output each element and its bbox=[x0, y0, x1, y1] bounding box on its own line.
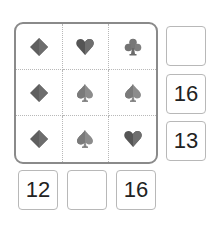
grid-cell-r2-c1[interactable] bbox=[63, 116, 110, 162]
heart-icon bbox=[123, 129, 143, 149]
club-icon bbox=[123, 37, 143, 57]
grid-cell-r1-c2[interactable] bbox=[109, 70, 156, 116]
grid-cell-r0-c0[interactable] bbox=[16, 24, 63, 70]
grid-cell-r2-c0[interactable] bbox=[16, 116, 63, 162]
grid-cell-r2-c2[interactable] bbox=[109, 116, 156, 162]
diamond-icon bbox=[29, 37, 49, 57]
spade-icon bbox=[75, 83, 95, 103]
grid-cell-r0-c2[interactable] bbox=[109, 24, 156, 70]
col-clue-2: 16 bbox=[116, 170, 156, 210]
col-clue-1 bbox=[67, 170, 107, 210]
row-clue-0 bbox=[166, 26, 206, 66]
suit-grid bbox=[14, 22, 158, 164]
grid-cell-r1-c0[interactable] bbox=[16, 70, 63, 116]
diamond-icon bbox=[29, 83, 49, 103]
row-clue-2: 13 bbox=[166, 121, 206, 161]
grid-cell-r0-c1[interactable] bbox=[63, 24, 110, 70]
spade-icon bbox=[123, 83, 143, 103]
grid-cell-r1-c1[interactable] bbox=[63, 70, 110, 116]
diamond-icon bbox=[29, 129, 49, 149]
col-clue-0: 12 bbox=[18, 170, 58, 210]
row-clue-1: 16 bbox=[166, 74, 206, 114]
spade-icon bbox=[75, 129, 95, 149]
heart-icon bbox=[75, 37, 95, 57]
